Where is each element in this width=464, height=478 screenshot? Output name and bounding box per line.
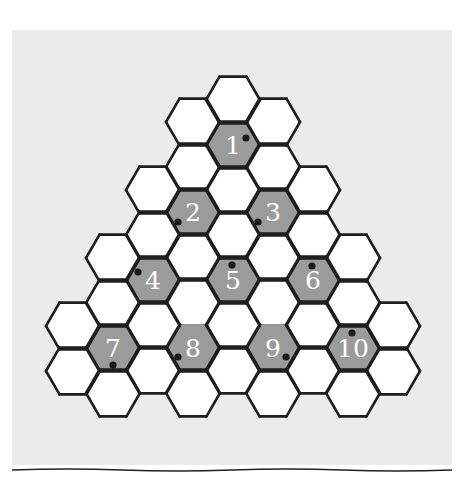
dot-marker: [242, 134, 249, 141]
bottom-rule: [12, 466, 452, 474]
dot-marker: [308, 262, 315, 269]
dot-marker: [282, 353, 289, 360]
cell-number: 8: [185, 334, 201, 363]
cell-number: 3: [265, 198, 281, 227]
cell-number: 10: [337, 334, 369, 363]
hex-board: 12345678910: [0, 0, 464, 478]
dot-marker: [134, 268, 141, 275]
cell-number: 7: [105, 334, 121, 363]
cell-number: 1: [225, 131, 241, 160]
dot-marker: [228, 261, 235, 268]
dot-marker: [254, 218, 261, 225]
dot-marker: [109, 361, 116, 368]
cell-number: 5: [225, 266, 241, 295]
cell-number: 2: [185, 198, 201, 227]
cell-number: 9: [265, 334, 281, 363]
cell-number: 6: [305, 266, 321, 295]
dot-marker: [348, 329, 355, 336]
dot-marker: [174, 218, 181, 225]
dot-marker: [174, 353, 181, 360]
cell-number: 4: [145, 266, 161, 295]
